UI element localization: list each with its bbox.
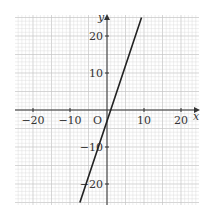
y-tick-label: 10 [89, 67, 103, 80]
axes [15, 14, 200, 205]
y-axis-label: y [97, 11, 105, 24]
x-axis-label: x [193, 110, 200, 123]
y-tick-label: −20 [80, 178, 103, 191]
x-tick-label: −10 [58, 114, 81, 127]
x-tick-label: 20 [174, 114, 188, 127]
y-axis-arrow-icon [104, 14, 110, 20]
origin-label: O [93, 114, 102, 127]
y-tick-label: 20 [89, 30, 103, 43]
x-tick-label: −20 [21, 114, 44, 127]
line-graph: −20−1010202010−10−20 x y O [0, 0, 207, 219]
x-tick-label: 10 [137, 114, 151, 127]
